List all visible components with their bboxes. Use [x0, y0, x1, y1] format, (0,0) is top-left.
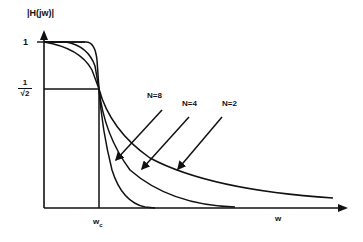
- label-n2: N=2: [222, 100, 237, 108]
- arrow-n8-icon: [116, 110, 162, 160]
- cutoff-label-sub: c: [99, 222, 102, 228]
- cutoff-frequency-label: wc: [93, 218, 103, 228]
- y-tick-one: 1: [23, 38, 28, 47]
- y-axis: [40, 30, 48, 208]
- x-axis-arrow-icon: [338, 204, 348, 212]
- label-n8: N=8: [147, 92, 162, 100]
- pointer-arrows: [116, 110, 222, 169]
- half-power-numerator: 1: [18, 79, 32, 89]
- curve-n4: [44, 42, 235, 207]
- y-tick-half-power: 1 √2: [18, 79, 32, 98]
- arrow-n2-icon: [178, 117, 222, 169]
- x-axis-label: w: [275, 215, 281, 223]
- y-axis-label: |H(jw)|: [27, 9, 54, 18]
- half-power-denominator: √2: [18, 89, 32, 98]
- label-n4: N=4: [182, 100, 197, 108]
- butterworth-diagram: [0, 0, 363, 242]
- x-axis: [44, 204, 348, 212]
- curve-n2: [44, 42, 333, 198]
- y-axis-arrow-icon: [40, 30, 48, 40]
